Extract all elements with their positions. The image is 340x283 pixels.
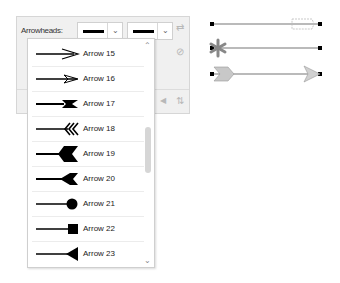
arrowhead-dropdown-list[interactable]: ⌃ Arrow 15 Arrow 16 Arrow 17 Arrow 18 Ar… xyxy=(27,38,155,268)
preview-row-fletched-arrow xyxy=(210,66,322,82)
swallowtail-icon xyxy=(34,170,80,188)
flip-icon[interactable]: ⇅ xyxy=(176,95,184,106)
square-icon xyxy=(34,220,80,238)
arrowheads-label: Arrowheads: xyxy=(21,26,63,35)
preview-row-hand-pointer xyxy=(210,19,322,29)
list-item-arrow-19[interactable]: Arrow 19 xyxy=(32,142,144,167)
list-item-arrow-18[interactable]: Arrow 18 xyxy=(32,117,144,142)
list-item-arrow-22[interactable]: Arrow 22 xyxy=(32,217,144,242)
chevrons-icon xyxy=(34,120,80,138)
feather-icon xyxy=(34,95,80,113)
list-item-arrow-16[interactable]: Arrow 16 xyxy=(32,67,144,92)
line-preview xyxy=(83,30,104,33)
list-item-arrow-15[interactable]: Arrow 15 xyxy=(32,42,144,67)
swallowtail-large-icon xyxy=(34,145,80,163)
scroll-up-icon[interactable]: ⌃ xyxy=(144,41,151,50)
list-item-arrow-17[interactable]: Arrow 17 xyxy=(32,92,144,117)
chevron-down-icon[interactable]: ⌄ xyxy=(107,23,122,39)
list-item-arrow-23[interactable]: Arrow 23 xyxy=(32,242,144,266)
line-preview xyxy=(133,30,154,33)
list-item-arrow-20[interactable]: Arrow 20 xyxy=(32,167,144,192)
left-arrow-icon[interactable]: ◀ xyxy=(160,96,166,105)
open-arrow-thin-icon xyxy=(34,70,80,88)
list-item-arrow-21[interactable]: Arrow 21 xyxy=(32,192,144,217)
arrowhead-preview xyxy=(208,15,326,85)
scrollbar-thumb[interactable] xyxy=(145,127,151,173)
preview-row-asterisk xyxy=(210,40,322,56)
swap-icon[interactable]: ⇄ xyxy=(176,22,184,33)
scroll-down-icon[interactable]: ⌄ xyxy=(144,256,151,265)
open-arrow-icon xyxy=(34,45,80,63)
circle-icon xyxy=(34,195,80,213)
triangle-reverse-icon xyxy=(34,245,80,263)
chevron-down-icon[interactable]: ⌄ xyxy=(157,23,172,39)
unlink-icon[interactable]: ⊘ xyxy=(176,46,184,57)
